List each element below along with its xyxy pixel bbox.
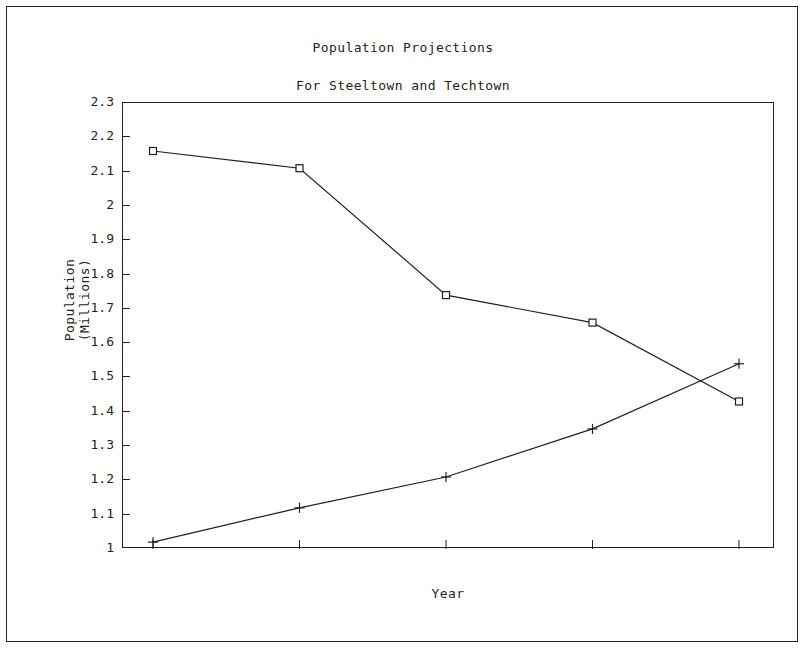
data-point-techtown-4 bbox=[734, 359, 744, 369]
chart-screenshot: Population Projections For Steeltown and… bbox=[0, 0, 806, 660]
y-axis-tick-mark bbox=[122, 274, 130, 275]
square-marker-icon bbox=[589, 319, 596, 326]
data-point-techtown-2 bbox=[441, 472, 451, 482]
square-marker-icon bbox=[150, 148, 157, 155]
y-axis-tick-mark bbox=[122, 136, 130, 137]
y-axis-tick-mark bbox=[122, 376, 130, 377]
y-axis-tick-label: 1.3 bbox=[70, 438, 114, 451]
y-axis-tick-label: 1.7 bbox=[70, 301, 114, 314]
data-point-techtown-3 bbox=[588, 424, 598, 434]
data-point-steeltown-0 bbox=[150, 148, 157, 155]
y-axis-tick-label: 2 bbox=[70, 198, 114, 211]
data-point-steeltown-3 bbox=[589, 319, 596, 326]
y-axis-tick-mark bbox=[122, 445, 130, 446]
population-projections-chart: Population Projections For Steeltown and… bbox=[0, 0, 806, 660]
square-marker-icon bbox=[296, 165, 303, 172]
y-axis-tick-label: 1.4 bbox=[70, 404, 114, 417]
data-point-steeltown-4 bbox=[736, 398, 743, 405]
y-axis-tick-label: 1.9 bbox=[70, 232, 114, 245]
series-line-steeltown bbox=[153, 151, 739, 402]
y-axis-tick-mark bbox=[122, 342, 130, 343]
chart-title: Population Projections bbox=[0, 40, 806, 55]
data-point-techtown-1 bbox=[295, 503, 305, 513]
y-axis-tick-mark bbox=[122, 514, 130, 515]
y-axis-tick-label: 1.8 bbox=[70, 267, 114, 280]
y-axis-tick-mark bbox=[122, 479, 130, 480]
square-marker-icon bbox=[736, 398, 743, 405]
data-point-techtown-0 bbox=[148, 537, 158, 547]
x-axis-title: Year bbox=[122, 586, 774, 601]
y-axis-tick-mark bbox=[122, 411, 130, 412]
y-axis-tick-label: 1.1 bbox=[70, 507, 114, 520]
y-axis-tick-label: 1.2 bbox=[70, 472, 114, 485]
y-axis-tick-label: 2.1 bbox=[70, 164, 114, 177]
data-point-steeltown-1 bbox=[296, 165, 303, 172]
y-axis-tick-label: 2.3 bbox=[70, 95, 114, 108]
y-axis-tick-label: 1.5 bbox=[70, 369, 114, 382]
plot-area bbox=[122, 102, 774, 548]
plot-svg bbox=[123, 103, 775, 549]
y-axis-tick-mark bbox=[122, 205, 130, 206]
y-axis-tick-label: 1 bbox=[70, 541, 114, 554]
y-axis-tick-label: 1.6 bbox=[70, 335, 114, 348]
y-axis-tick-label: 2.2 bbox=[70, 129, 114, 142]
y-axis-tick-mark bbox=[122, 308, 130, 309]
y-axis-tick-mark bbox=[122, 239, 130, 240]
y-axis-tick-mark bbox=[122, 171, 130, 172]
square-marker-icon bbox=[443, 292, 450, 299]
chart-subtitle: For Steeltown and Techtown bbox=[0, 78, 806, 93]
data-point-steeltown-2 bbox=[443, 292, 450, 299]
series-line-techtown bbox=[153, 364, 739, 542]
